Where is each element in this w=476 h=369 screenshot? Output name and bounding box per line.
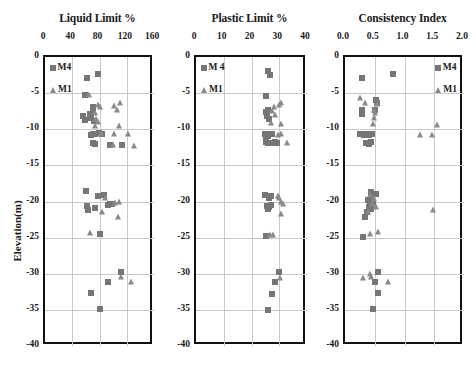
legend-item-m4: M4 — [435, 63, 457, 73]
gridline-horizontal — [45, 202, 154, 203]
data-point-square — [84, 75, 90, 81]
legend-triangle-icon — [201, 87, 207, 93]
data-point-square — [263, 139, 269, 145]
data-point-square — [264, 203, 270, 209]
data-point-square — [263, 133, 269, 139]
x-axis-tick-label: 40 — [66, 31, 76, 41]
plot-frame-consistency-index: M4M1 — [343, 55, 462, 344]
data-point-triangle — [117, 100, 123, 106]
data-point-square — [269, 131, 275, 137]
gridline-horizontal — [345, 274, 464, 275]
y-axis-tick-label: -35 — [21, 303, 39, 313]
data-point-triangle — [365, 208, 371, 214]
data-point-triangle — [367, 191, 373, 197]
data-point-triangle — [357, 95, 363, 101]
y-axis-tick-label: -15 — [172, 158, 190, 168]
panel-title-consistency-index: Consistency Index — [343, 12, 462, 24]
legend-label: M1 — [443, 85, 457, 95]
data-point-triangle — [92, 123, 98, 129]
y-axis-tick-label: -35 — [172, 303, 190, 313]
data-point-square — [105, 202, 111, 208]
data-point-triangle — [116, 122, 122, 128]
y-axis-tick-label: -20 — [21, 195, 39, 205]
y-axis-tick-label: -5 — [21, 86, 39, 96]
x-axis-tick-label: 0 — [41, 31, 46, 41]
data-point-square — [265, 68, 271, 74]
legend-label: M4 — [443, 63, 457, 73]
data-point-square — [362, 214, 368, 220]
data-point-square — [80, 113, 86, 119]
x-axis-tick-label: 120 — [118, 31, 132, 41]
data-point-triangle — [102, 194, 108, 200]
data-point-square — [83, 188, 89, 194]
legend-label: M4 — [58, 63, 72, 73]
data-point-square — [272, 279, 278, 285]
y-axis-tick-label: -40 — [321, 339, 339, 349]
data-point-square — [265, 206, 271, 212]
gridline-horizontal — [196, 274, 307, 275]
x-axis-tick-label: 30 — [273, 31, 283, 41]
data-point-triangle — [360, 274, 366, 280]
data-point-square — [366, 141, 372, 147]
data-point-square — [107, 142, 113, 148]
data-point-square — [262, 192, 268, 198]
gridline-horizontal — [196, 310, 307, 311]
data-point-square — [105, 279, 111, 285]
legend-square-icon — [435, 65, 441, 71]
chart-panel-plastic-limit: Plastic Limit % M 4M1 0102030400-5-10-15… — [194, 0, 305, 369]
data-point-triangle — [115, 214, 121, 220]
data-point-square — [268, 140, 274, 146]
data-point-square — [357, 131, 363, 137]
data-point-square — [268, 202, 274, 208]
x-axis-tick-label: 40 — [300, 31, 310, 41]
data-point-triangle — [114, 106, 120, 112]
data-point-square — [87, 111, 93, 117]
legend-item-m4: M4 — [50, 63, 72, 73]
y-axis-tick-label: -15 — [21, 158, 39, 168]
data-point-square — [269, 291, 275, 297]
data-point-square — [366, 132, 372, 138]
panel-title-plastic-limit: Plastic Limit % — [194, 12, 305, 24]
data-point-square — [359, 111, 365, 117]
gridline-horizontal — [45, 165, 154, 166]
x-axis-tick-label: 2.0 — [456, 31, 468, 41]
y-axis-tick-label: -20 — [172, 195, 190, 205]
x-axis-tick-label: 80 — [93, 31, 103, 41]
gridline-horizontal — [345, 238, 464, 239]
data-point-triangle — [128, 278, 134, 284]
gridline-horizontal — [45, 129, 154, 130]
y-axis-tick-label: -30 — [21, 267, 39, 277]
legend-item-m4: M 4 — [201, 63, 225, 73]
data-point-triangle — [92, 110, 98, 116]
legend-label: M1 — [209, 85, 223, 95]
data-point-square — [262, 131, 268, 137]
gridline-horizontal — [345, 310, 464, 311]
gridline-horizontal — [345, 165, 464, 166]
legend-label: M1 — [58, 85, 72, 95]
data-point-square — [359, 131, 365, 137]
plot-frame-plastic-limit: M 4M1 — [194, 55, 305, 344]
plot-frame-liquid-limit: M4M1 — [43, 55, 152, 344]
x-axis-tick-label: 20 — [245, 31, 255, 41]
legend-label: M 4 — [209, 63, 225, 73]
y-axis-tick-label: 0 — [21, 50, 39, 60]
y-axis-tick-label: -10 — [172, 122, 190, 132]
chart-panel-consistency-index: Consistency Index M4M1 0.00.51.01.52.00-… — [343, 0, 462, 369]
y-axis-tick-label: -20 — [321, 195, 339, 205]
data-point-square — [90, 140, 96, 146]
data-point-square — [88, 290, 94, 296]
data-point-square — [363, 131, 369, 137]
data-point-triangle — [111, 131, 117, 137]
data-point-square — [363, 140, 369, 146]
y-axis-tick-label: -35 — [321, 303, 339, 313]
gridline-horizontal — [345, 202, 464, 203]
data-point-square — [266, 195, 272, 201]
y-axis-tick-label: -10 — [321, 122, 339, 132]
data-point-triangle — [367, 230, 373, 236]
figure-root: Liquid Limit % M4M1 040801201600-5-10-15… — [0, 0, 476, 369]
gridline-horizontal — [196, 129, 307, 130]
y-axis-tick-label: -30 — [321, 267, 339, 277]
y-axis-tick-label: -25 — [21, 231, 39, 241]
data-point-triangle — [93, 116, 99, 122]
data-point-square — [263, 109, 269, 115]
